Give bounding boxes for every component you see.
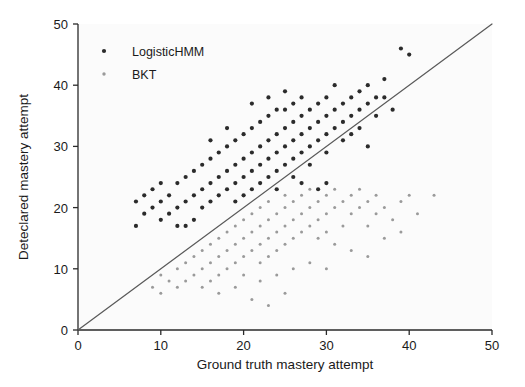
data-point-bkt bbox=[375, 194, 378, 197]
data-point-logistichmm bbox=[258, 120, 262, 124]
x-tick-label-20: 20 bbox=[236, 338, 250, 353]
data-point-logistichmm bbox=[382, 95, 386, 99]
data-point-bkt bbox=[226, 249, 229, 252]
data-point-bkt bbox=[366, 200, 369, 203]
data-point-bkt bbox=[267, 218, 270, 221]
data-point-bkt bbox=[209, 243, 212, 246]
data-point-logistichmm bbox=[242, 132, 246, 136]
data-point-bkt bbox=[284, 206, 287, 209]
data-point-bkt bbox=[350, 249, 353, 252]
data-point-logistichmm bbox=[167, 212, 171, 216]
data-point-logistichmm bbox=[208, 157, 212, 161]
y-tick-label-10: 10 bbox=[54, 262, 68, 277]
legend-marker-logistichmm bbox=[102, 49, 106, 53]
data-point-logistichmm bbox=[333, 83, 337, 87]
data-point-bkt bbox=[217, 273, 220, 276]
y-tick-label-40: 40 bbox=[54, 78, 68, 93]
data-point-logistichmm bbox=[250, 150, 254, 154]
y-axis-title: Deteclared mastery attempt bbox=[16, 94, 31, 260]
data-point-logistichmm bbox=[308, 108, 312, 112]
data-point-logistichmm bbox=[308, 126, 312, 130]
data-point-logistichmm bbox=[200, 206, 204, 210]
data-point-logistichmm bbox=[324, 150, 328, 154]
data-point-logistichmm bbox=[233, 181, 237, 185]
data-point-bkt bbox=[250, 249, 253, 252]
data-point-bkt bbox=[217, 255, 220, 258]
x-axis-title: Ground truth mastery attempt bbox=[197, 357, 374, 372]
data-point-bkt bbox=[292, 218, 295, 221]
data-point-bkt bbox=[358, 188, 361, 191]
data-point-bkt bbox=[184, 280, 187, 283]
y-tick-label-30: 30 bbox=[54, 139, 68, 154]
data-point-logistichmm bbox=[324, 114, 328, 118]
x-tick-label-0: 0 bbox=[74, 338, 81, 353]
data-point-logistichmm bbox=[167, 193, 171, 197]
data-point-bkt bbox=[267, 304, 270, 307]
data-point-logistichmm bbox=[242, 193, 246, 197]
data-point-logistichmm bbox=[266, 95, 270, 99]
data-point-logistichmm bbox=[324, 132, 328, 136]
data-point-logistichmm bbox=[275, 150, 279, 154]
data-point-bkt bbox=[333, 243, 336, 246]
data-point-bkt bbox=[308, 206, 311, 209]
data-point-bkt bbox=[267, 237, 270, 240]
data-point-bkt bbox=[292, 237, 295, 240]
data-point-logistichmm bbox=[316, 138, 320, 142]
data-point-bkt bbox=[267, 200, 270, 203]
data-point-logistichmm bbox=[291, 157, 295, 161]
chart-svg: 01020304050 01020304050 Ground truth mas… bbox=[0, 0, 525, 387]
data-point-bkt bbox=[300, 194, 303, 197]
y-tick-label-20: 20 bbox=[54, 201, 68, 216]
data-point-logistichmm bbox=[175, 206, 179, 210]
data-point-logistichmm bbox=[175, 181, 179, 185]
data-point-bkt bbox=[250, 298, 253, 301]
data-point-bkt bbox=[325, 212, 328, 215]
data-point-bkt bbox=[192, 255, 195, 258]
data-point-logistichmm bbox=[266, 175, 270, 179]
data-point-logistichmm bbox=[349, 95, 353, 99]
data-point-logistichmm bbox=[366, 83, 370, 87]
data-point-logistichmm bbox=[283, 144, 287, 148]
data-point-logistichmm bbox=[258, 144, 262, 148]
legend-marker-bkt bbox=[102, 72, 105, 75]
data-point-logistichmm bbox=[291, 101, 295, 105]
data-point-bkt bbox=[433, 194, 436, 197]
data-point-bkt bbox=[242, 273, 245, 276]
data-point-logistichmm bbox=[291, 138, 295, 142]
data-point-bkt bbox=[226, 231, 229, 234]
data-point-logistichmm bbox=[159, 199, 163, 203]
data-point-logistichmm bbox=[200, 163, 204, 167]
data-point-bkt bbox=[275, 273, 278, 276]
data-point-logistichmm bbox=[308, 144, 312, 148]
data-point-logistichmm bbox=[324, 95, 328, 99]
data-point-bkt bbox=[366, 224, 369, 227]
data-point-logistichmm bbox=[407, 53, 411, 57]
data-point-logistichmm bbox=[225, 144, 229, 148]
scatter-plot-figure: 01020304050 01020304050 Ground truth mas… bbox=[0, 0, 525, 387]
data-point-logistichmm bbox=[233, 199, 237, 203]
data-point-bkt bbox=[308, 224, 311, 227]
data-point-bkt bbox=[292, 200, 295, 203]
data-point-bkt bbox=[250, 212, 253, 215]
data-point-bkt bbox=[391, 218, 394, 221]
data-point-bkt bbox=[317, 237, 320, 240]
data-point-logistichmm bbox=[217, 175, 221, 179]
data-point-bkt bbox=[284, 224, 287, 227]
data-point-bkt bbox=[234, 261, 237, 264]
data-point-bkt bbox=[209, 280, 212, 283]
data-point-logistichmm bbox=[225, 169, 229, 173]
data-point-bkt bbox=[399, 231, 402, 234]
data-point-logistichmm bbox=[233, 163, 237, 167]
data-point-logistichmm bbox=[391, 108, 395, 112]
data-point-logistichmm bbox=[341, 101, 345, 105]
data-point-logistichmm bbox=[283, 108, 287, 112]
data-point-bkt bbox=[375, 212, 378, 215]
data-point-bkt bbox=[201, 267, 204, 270]
data-point-logistichmm bbox=[159, 218, 163, 222]
data-point-bkt bbox=[217, 237, 220, 240]
data-point-bkt bbox=[259, 261, 262, 264]
data-point-logistichmm bbox=[374, 95, 378, 99]
data-point-bkt bbox=[259, 206, 262, 209]
data-point-logistichmm bbox=[159, 181, 163, 185]
data-point-bkt bbox=[366, 255, 369, 258]
